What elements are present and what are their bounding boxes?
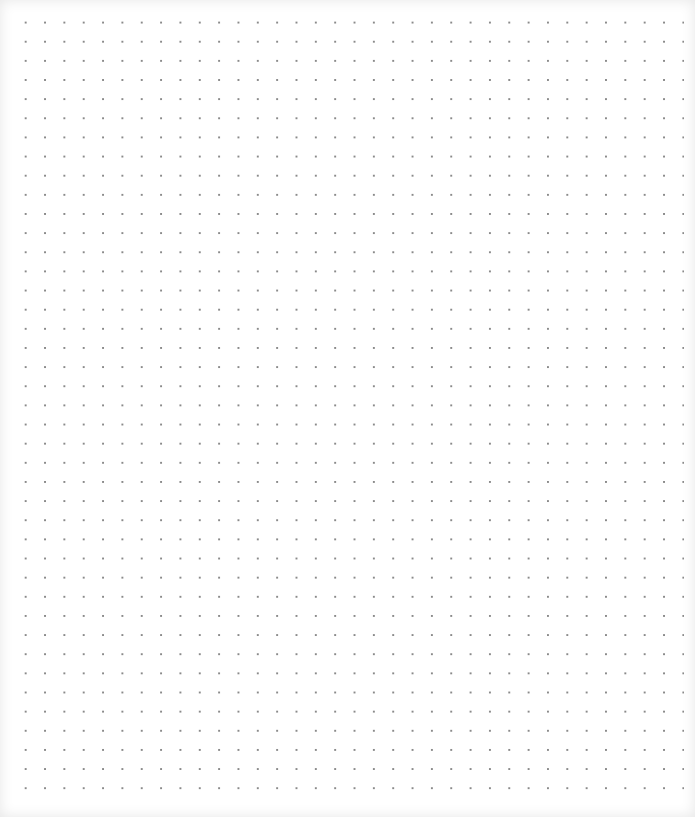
dotted-paper-page: [0, 0, 695, 817]
dot-grid: [16, 13, 684, 803]
